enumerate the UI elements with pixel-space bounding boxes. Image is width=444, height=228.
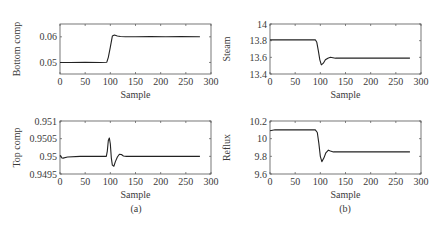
y-tick-label: 0.951 <box>35 116 58 127</box>
y-tick-label: 0.9495 <box>30 169 58 180</box>
y-tick-label: 9.6 <box>255 169 268 180</box>
x-tick-label: 100 <box>313 76 328 87</box>
x-tick-label: 50 <box>80 76 90 87</box>
x-axis-label: Sample <box>121 189 152 200</box>
y-axis-label: Steam <box>221 36 232 61</box>
axes-frame <box>60 24 211 74</box>
x-tick-label: 300 <box>414 76 429 87</box>
y-tick-label: 0.9505 <box>30 133 58 144</box>
y-axis-label: Top comp <box>11 127 22 167</box>
x-tick-label: 250 <box>388 176 403 187</box>
y-tick-label: 9.8 <box>255 151 268 162</box>
x-tick-label: 200 <box>153 176 168 187</box>
y-tick-label: 0.05 <box>40 57 58 68</box>
y-tick-label: 10.2 <box>250 116 268 127</box>
x-tick-label: 250 <box>178 176 193 187</box>
x-tick-label: 0 <box>268 176 273 187</box>
y-tick-label: 13.6 <box>250 52 268 63</box>
y-axis-label: Reflux <box>221 134 232 161</box>
y-tick-label: 0.95 <box>40 151 58 162</box>
y-tick-label: 0.06 <box>40 31 58 42</box>
x-tick-label: 0 <box>268 76 273 87</box>
y-axis-label: Bottom comp <box>11 22 22 77</box>
x-tick-label: 50 <box>290 176 300 187</box>
x-tick-label: 0 <box>58 176 63 187</box>
x-axis-label: Sample <box>331 189 362 200</box>
x-axis-label: Sample <box>121 89 152 100</box>
axes-frame <box>270 24 421 74</box>
x-tick-label: 50 <box>80 176 90 187</box>
panel-bottom-comp: 0501001502002503000.050.06SampleBottom c… <box>11 22 219 100</box>
y-tick-label: 13.4 <box>250 69 268 80</box>
data-line <box>270 130 410 162</box>
x-tick-label: 100 <box>103 76 118 87</box>
y-tick-label: 13.8 <box>250 35 268 46</box>
x-tick-label: 100 <box>313 176 328 187</box>
x-tick-label: 50 <box>290 76 300 87</box>
x-tick-label: 300 <box>204 176 219 187</box>
x-tick-label: 150 <box>338 176 353 187</box>
y-tick-label: 14 <box>257 19 267 30</box>
panel-reflux: 0501001502002503009.69.81010.2SampleRefl… <box>221 116 429 201</box>
data-line <box>60 35 200 62</box>
x-tick-label: 300 <box>414 176 429 187</box>
x-axis-label: Sample <box>331 89 362 100</box>
x-tick-label: 150 <box>338 76 353 87</box>
x-tick-label: 0 <box>58 76 63 87</box>
x-tick-label: 150 <box>128 176 143 187</box>
panel-steam: 05010015020025030013.413.613.814SampleSt… <box>221 19 429 101</box>
data-line <box>60 138 200 166</box>
axes-frame <box>60 121 211 174</box>
x-tick-label: 250 <box>178 76 193 87</box>
x-tick-label: 200 <box>363 176 378 187</box>
x-tick-label: 250 <box>388 76 403 87</box>
x-tick-label: 100 <box>103 176 118 187</box>
x-tick-label: 200 <box>363 76 378 87</box>
axes-frame <box>270 121 421 174</box>
y-tick-label: 10 <box>257 133 267 144</box>
caption-b: (b) <box>325 203 365 214</box>
caption-a: (a) <box>116 203 156 214</box>
x-tick-label: 200 <box>153 76 168 87</box>
x-tick-label: 300 <box>204 76 219 87</box>
data-line <box>270 40 410 65</box>
x-tick-label: 150 <box>128 76 143 87</box>
figure: 0501001502002503000.050.06SampleBottom c… <box>0 0 444 228</box>
panel-top-comp: 0501001502002503000.94950.950.95050.951S… <box>11 116 219 201</box>
